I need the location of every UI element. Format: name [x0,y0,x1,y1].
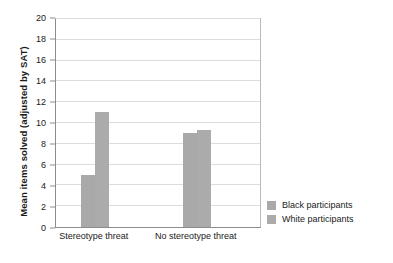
x-axis-tick-label: Stereotype threat [59,231,128,242]
y-axis-title-text: Mean items solved (adjusted by SAT) [18,46,29,217]
legend-item-black-participants: Black participants [267,198,391,212]
legend-label-black-participants: Black participants [282,201,353,210]
gridline [56,18,260,19]
y-axis-tick-labels: 02468101214161820 [30,18,50,228]
gridline [56,164,260,165]
y-axis-tick-label: 0 [41,224,46,233]
legend-swatch-white-participants [267,215,276,224]
y-axis-tick-label: 8 [41,140,46,149]
bar-white-participants-no-stereotype-threat [197,130,211,227]
y-axis-tick-label: 2 [41,203,46,212]
legend-swatch-black-participants [267,201,276,210]
gridline [56,60,260,61]
gridline [56,80,260,81]
bar-chart-figure: Mean items solved (adjusted by SAT) 0246… [0,0,393,263]
legend-item-white-participants: White participants [267,212,391,226]
x-axis-tick-label: No stereotype threat [155,231,237,242]
plot-area [55,18,261,228]
y-axis-tick-label: 4 [41,182,46,191]
y-axis-tick-label: 14 [36,77,46,86]
y-axis-tick-label: 10 [36,119,46,128]
y-axis-tick-label: 16 [36,56,46,65]
x-axis-tick-labels: Stereotype threatNo stereotype threat [55,231,261,247]
gridline [56,122,260,123]
y-axis-tick-label: 20 [36,14,46,23]
bar-black-participants-stereotype-threat [81,175,95,227]
bar-white-participants-stereotype-threat [95,112,109,227]
gridline [56,101,260,102]
y-axis-tick-label: 12 [36,98,46,107]
y-axis-tick-label: 6 [41,161,46,170]
legend: Black participants White participants [267,198,391,226]
y-axis-tick-label: 18 [36,35,46,44]
legend-label-white-participants: White participants [282,215,354,224]
gridline [56,39,260,40]
bar-black-participants-no-stereotype-threat [183,133,197,227]
gridline [56,143,260,144]
